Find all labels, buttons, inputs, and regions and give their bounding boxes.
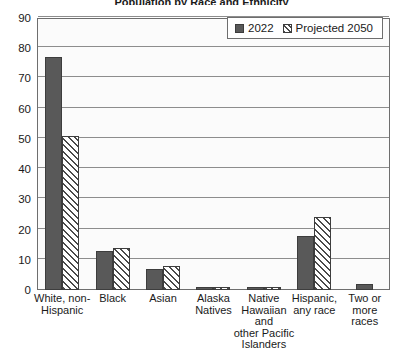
bar-projected-2050 (314, 217, 331, 290)
bar-group (239, 18, 289, 290)
legend-swatch-solid-icon (235, 24, 244, 33)
bar-projected-2050 (163, 266, 180, 290)
bar-projected-2050 (213, 287, 230, 290)
y-axis-tick-label: 50 (0, 133, 31, 145)
x-axis-label-line: Two or (334, 293, 396, 305)
bar-group (340, 18, 390, 290)
bar-2022 (146, 269, 163, 290)
y-axis-tick-label: 60 (0, 103, 31, 115)
bar-group (289, 18, 339, 290)
bar-2022 (247, 287, 264, 290)
y-axis-tick-label: 10 (0, 254, 31, 266)
y-axis-tick-label: 70 (0, 72, 31, 84)
x-axis-label-line: races (334, 316, 396, 328)
x-axis-tick-label: Two ormoreraces (334, 293, 396, 328)
x-axis-label-line: Islanders (233, 339, 295, 351)
bar-projected-2050 (264, 287, 281, 290)
y-axis-tick-label: 20 (0, 224, 31, 236)
bar-projected-2050 (113, 248, 130, 290)
y-axis-tick-label: 40 (0, 163, 31, 175)
legend-item-projected-2050: Projected 2050 (283, 22, 373, 34)
bar-2022 (45, 57, 62, 290)
legend: 2022 Projected 2050 (227, 17, 383, 39)
bar-2022 (297, 236, 314, 290)
bar-group (138, 18, 188, 290)
bar-chart: Population by Race and Ethnicity 0102030… (0, 0, 403, 351)
legend-label-projected-2050: Projected 2050 (296, 22, 373, 34)
legend-swatch-hatch-icon (283, 24, 292, 33)
y-axis-tick-label: 0 (0, 284, 31, 296)
bar-group (188, 18, 238, 290)
bar-2022 (356, 284, 373, 290)
x-axis: White, non-HispanicBlackAsianAlaskaNativ… (37, 293, 390, 351)
bar-2022 (196, 287, 213, 290)
y-axis-tick-label: 80 (0, 42, 31, 54)
x-axis-label-line: Hispanic (31, 305, 93, 317)
bar-projected-2050 (62, 136, 79, 290)
bar-2022 (96, 251, 113, 290)
y-axis-tick-label: 30 (0, 193, 31, 205)
bar-group (37, 18, 87, 290)
legend-item-2022: 2022 (235, 22, 274, 34)
y-axis-tick-label: 90 (0, 12, 31, 24)
legend-label-2022: 2022 (248, 22, 274, 34)
bar-group (87, 18, 137, 290)
bar-groups (37, 18, 390, 290)
